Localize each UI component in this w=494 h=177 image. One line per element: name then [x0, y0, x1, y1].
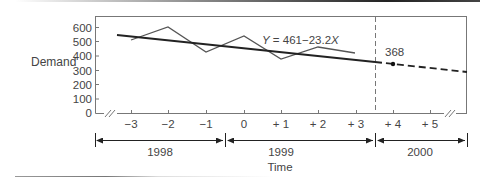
forecast-point	[391, 62, 395, 66]
x-tick-m1: −1	[199, 118, 212, 130]
equation-body: = 461−23.2	[270, 34, 331, 46]
x-axis-label: Time	[267, 161, 292, 173]
x-tick-p2: + 2	[310, 118, 326, 130]
x-tick-m2: −2	[161, 118, 174, 130]
forecast-dashed-line	[375, 62, 467, 72]
trend-equation: Y = 461−23.2X	[262, 34, 340, 46]
y-axis-label: Demand	[31, 55, 76, 69]
axis-break-right-icon	[445, 110, 455, 117]
equation-x: X	[330, 34, 340, 46]
x-axis-ticks	[132, 110, 431, 113]
y-axis-labels: 600 500 400 300 200 100 0	[73, 22, 92, 120]
y-tick-200: 200	[73, 79, 92, 91]
y-tick-600: 600	[73, 22, 92, 34]
y-tick-100: 100	[73, 93, 92, 105]
year-2000: 2000	[407, 146, 433, 158]
axis-break-left-icon	[105, 110, 115, 117]
x-axis-labels: −3 −2 −1 0 + 1 + 2 + 3 + 4 + 5	[124, 118, 438, 130]
year-labels: 1998 1999 2000	[147, 146, 433, 158]
year-brackets	[96, 133, 468, 147]
y-tick-0: 0	[86, 107, 92, 119]
x-tick-p5: + 5	[422, 118, 438, 130]
x-tick-p3: + 3	[348, 118, 364, 130]
y-tick-500: 500	[73, 36, 92, 48]
bottom-rule	[15, 176, 275, 177]
x-tick-p1: + 1	[273, 118, 289, 130]
x-tick-m3: −3	[124, 118, 137, 130]
x-tick-0: 0	[241, 118, 247, 130]
plot-frame	[96, 16, 468, 114]
year-1999: 1999	[268, 146, 294, 158]
year-1998: 1998	[147, 146, 173, 158]
demand-forecast-chart: 600 500 400 300 200 100 0 Demand −3 −2 −…	[0, 0, 494, 177]
top-rule	[15, 0, 480, 2]
forecast-value-label: 368	[385, 46, 404, 58]
x-tick-p4: + 4	[385, 118, 402, 130]
